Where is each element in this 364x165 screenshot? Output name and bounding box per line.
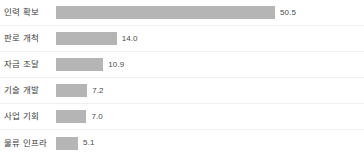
bar — [56, 137, 78, 150]
value-label: 14.0 — [122, 34, 138, 44]
bar — [56, 32, 117, 45]
category-label: 자금 조달 — [0, 59, 56, 70]
bar-area: 14.0 — [56, 26, 364, 52]
bar-row: 인력 확보 50.5 — [0, 0, 364, 26]
bar-row: 사업 기회 7.0 — [0, 104, 364, 130]
bar-row: 판로 개척 14.0 — [0, 26, 364, 52]
category-label: 판로 개척 — [0, 33, 56, 44]
bar-area: 5.1 — [56, 130, 364, 156]
value-label: 50.5 — [280, 8, 296, 18]
value-label: 7.0 — [91, 112, 102, 122]
value-label: 5.1 — [83, 138, 94, 148]
bar-area: 7.0 — [56, 104, 364, 130]
category-label: 인력 확보 — [0, 7, 56, 18]
bar-area: 10.9 — [56, 52, 364, 78]
value-label: 7.2 — [92, 86, 103, 96]
category-label: 물류 인프라 — [0, 138, 56, 149]
bar — [56, 110, 86, 123]
bar-area: 50.5 — [56, 0, 364, 26]
bar — [56, 58, 103, 71]
bar-row: 기술 개발 7.2 — [0, 78, 364, 104]
category-label: 사업 기회 — [0, 111, 56, 122]
bar-row: 자금 조달 10.9 — [0, 52, 364, 78]
bar — [56, 6, 275, 19]
horizontal-bar-chart: 인력 확보 50.5 판로 개척 14.0 자금 조달 10.9 기술 개발 7… — [0, 0, 364, 165]
category-label: 기술 개발 — [0, 85, 56, 96]
bar-row: 물류 인프라 5.1 — [0, 130, 364, 156]
bar-area: 7.2 — [56, 78, 364, 104]
bar — [56, 84, 87, 97]
value-label: 10.9 — [108, 60, 124, 70]
